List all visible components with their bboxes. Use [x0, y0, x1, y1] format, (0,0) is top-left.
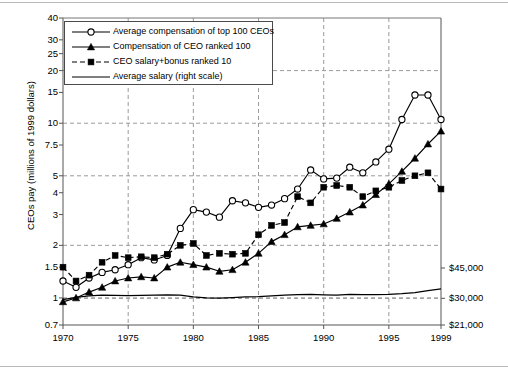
- series-0: [60, 92, 444, 291]
- series-1: [59, 128, 444, 305]
- series-2: [60, 170, 444, 284]
- y-tick-label: 7.5: [10, 139, 58, 150]
- legend-item-1: Compensation of CEO ranked 100: [69, 39, 251, 54]
- y-tick-label: 10: [10, 117, 58, 128]
- y-tick-label: 4: [10, 187, 58, 198]
- y-tick-label: 1: [10, 292, 58, 303]
- legend-symbol-plain-line: [69, 70, 113, 84]
- right-tick-label: $30,000: [449, 292, 483, 303]
- x-tick-label: 1980: [171, 332, 215, 343]
- legend-label: Average compensation of top 100 CEOs: [113, 27, 274, 36]
- legend-label: Average salary (right scale): [113, 72, 222, 81]
- legend-symbol-filled-triangle: [69, 40, 113, 54]
- x-tick-label: 1975: [106, 332, 150, 343]
- y-tick-label: 40: [10, 12, 58, 23]
- legend-item-2: CEO salary+bonus ranked 10: [69, 54, 231, 69]
- y-tick-label: 1.5: [10, 261, 58, 272]
- legend-symbol-filled-square: [69, 55, 113, 69]
- chart-figure: CEOs pay (millions of 1999 dollars) Aver…: [0, 0, 508, 369]
- legend-label: Compensation of CEO ranked 100: [113, 42, 251, 51]
- y-tick-label: 15: [10, 86, 58, 97]
- right-tick-label: $45,000: [449, 262, 483, 273]
- y-tick-label: 0.7: [10, 319, 58, 330]
- x-tick-label: 1985: [237, 332, 281, 343]
- x-tick-label: 1999: [419, 332, 463, 343]
- y-tick-label: 2: [10, 239, 58, 250]
- y-tick-label: 25: [10, 48, 58, 59]
- right-tick-label: $21,000: [449, 319, 483, 330]
- legend-symbol-open-circle: [69, 25, 113, 39]
- x-tick-label: 1990: [302, 332, 346, 343]
- legend-label: CEO salary+bonus ranked 10: [113, 57, 231, 66]
- legend-item-0: Average compensation of top 100 CEOs: [69, 24, 274, 39]
- legend: Average compensation of top 100 CEOs Com…: [64, 21, 273, 85]
- y-tick-label: 30: [10, 34, 58, 45]
- y-tick-label: 5: [10, 170, 58, 181]
- x-tick-label: 1995: [367, 332, 411, 343]
- y-tick-label: 20: [10, 65, 58, 76]
- y-tick-label: 3: [10, 209, 58, 220]
- legend-item-3: Average salary (right scale): [69, 69, 222, 84]
- x-tick-label: 1970: [41, 332, 85, 343]
